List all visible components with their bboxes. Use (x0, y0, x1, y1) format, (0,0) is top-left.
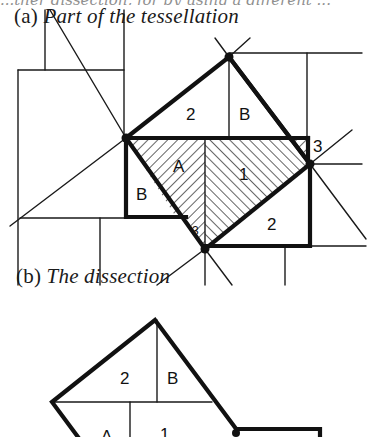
label-B: B (167, 369, 178, 388)
label-1: 1 (239, 165, 248, 184)
dissection-outline (52, 320, 320, 437)
hatched-piece-1 (205, 138, 310, 249)
label-A: A (173, 157, 185, 176)
label-2: 2 (120, 369, 129, 388)
diagram-a: 2 B 3 A 1 B 3 2 (10, 10, 366, 285)
label-A: A (101, 427, 113, 437)
vertex-dot (201, 245, 210, 254)
hatched-piece-A (126, 138, 205, 217)
label-3-small: 3 (192, 224, 199, 238)
label-B-left: B (136, 185, 147, 204)
label-3: 3 (313, 137, 322, 156)
vertex-dot (232, 429, 240, 437)
vertex-dot (122, 134, 131, 143)
vertex-dot (306, 160, 315, 169)
vertex-dot (225, 53, 234, 62)
label-2-top: 2 (186, 105, 195, 124)
label-2-bottom: 2 (267, 215, 276, 234)
label-1: 1 (160, 425, 169, 437)
tessellation-diagram: 2 B 3 A 1 B 3 2 2 B A 1 (0, 0, 374, 437)
diagram-b: 2 B A 1 (52, 320, 320, 437)
label-B-top: B (239, 105, 250, 124)
